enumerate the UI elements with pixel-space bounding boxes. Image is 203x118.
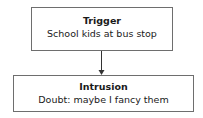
intrusion-title: Intrusion bbox=[14, 81, 193, 93]
intrusion-text: Doubt: maybe I fancy them bbox=[14, 93, 193, 106]
intrusion-node: Intrusion Doubt: maybe I fancy them bbox=[13, 75, 194, 112]
